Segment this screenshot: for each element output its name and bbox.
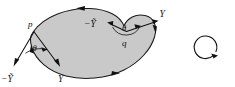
vector-label-minus-y-tilde-at-p: −Ỹ <box>1 73 14 84</box>
angle-label-theta-at-p: θ <box>33 43 37 53</box>
orientation-circle <box>194 36 218 59</box>
point-label-q: q <box>122 38 127 48</box>
diagram-canvas: p θ −Ỹ Y q θ <box>0 0 235 87</box>
point-label-p: p <box>27 19 33 29</box>
vector-label-y-at-q: Y <box>160 9 167 19</box>
vector-label-minus-y-tilde-at-q: −Ỹ <box>84 18 97 29</box>
figure-root: p θ −Ỹ Y q θ <box>0 0 235 87</box>
angle-label-theta-at-q: θ <box>122 23 126 33</box>
